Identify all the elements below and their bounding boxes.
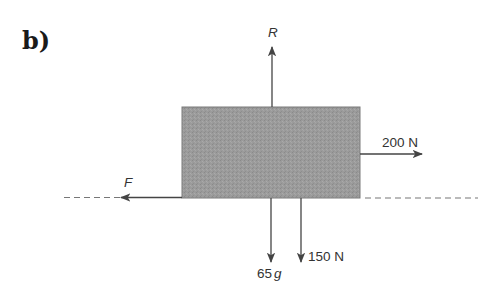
label-weight-g: g	[274, 266, 282, 281]
diagram-graphics	[0, 0, 502, 294]
part-label: b)	[22, 26, 50, 55]
force-diagram: b) R 200 N F 65g 150 N	[0, 0, 502, 294]
label-150N: 150 N	[308, 249, 344, 264]
label-200N: 200 N	[382, 135, 418, 150]
label-R: R	[268, 25, 278, 40]
label-weight-number: 65	[257, 266, 272, 281]
label-weight: 65g	[257, 266, 282, 281]
label-F: F	[124, 175, 132, 190]
block	[182, 107, 360, 198]
